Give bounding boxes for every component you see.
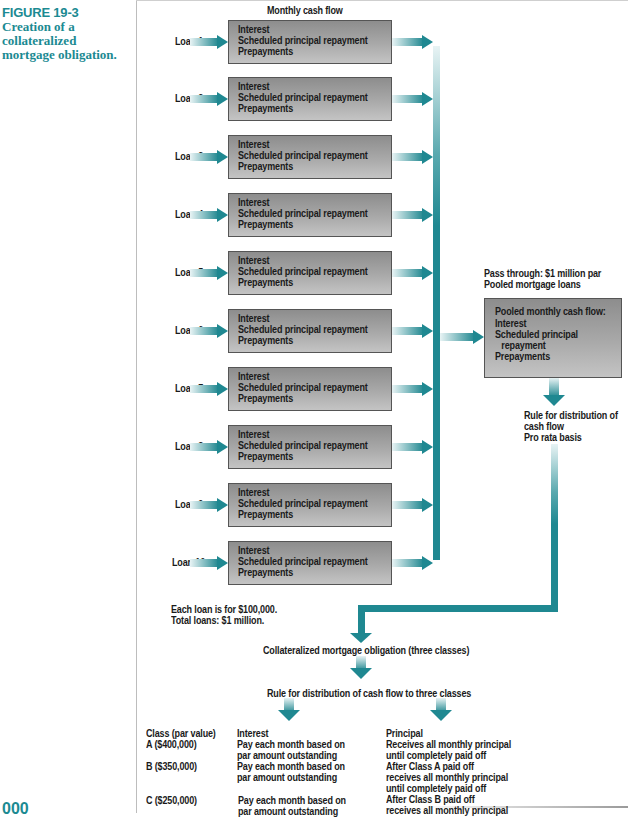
class-a-interest-line2: par amount outstanding xyxy=(237,750,345,761)
cash-flow-box: InterestScheduled principal repaymentPre… xyxy=(228,541,392,585)
route-bar-horizontal xyxy=(358,605,558,612)
loan-input-arrow xyxy=(190,556,228,570)
loan-output-arrow xyxy=(392,556,433,570)
cash-flow-item-prepayments: Prepayments xyxy=(238,509,368,520)
figure-caption: FIGURE 19-3 Creation of a collateralized… xyxy=(2,6,120,62)
cash-flow-item-interest: Interest xyxy=(238,81,368,92)
cash-flow-item-interest: Interest xyxy=(238,139,368,150)
pool-item-prepayments: Prepayments xyxy=(495,351,606,362)
class-b-interest-line1: Pay each month based on xyxy=(237,761,345,772)
loan-input-arrow xyxy=(190,150,228,164)
class-c-principal-line2: receives all monthly principal xyxy=(386,805,508,816)
cash-flow-item-prepayments: Prepayments xyxy=(238,567,368,578)
loan-output-arrow xyxy=(392,266,433,280)
pool-down-arrow xyxy=(543,378,565,408)
loan-input-arrow xyxy=(190,35,228,49)
cash-flow-items: InterestScheduled principal repaymentPre… xyxy=(238,545,368,578)
cash-flow-item-scheduled: Scheduled principal repayment xyxy=(238,556,368,567)
to-pool-arrow xyxy=(440,330,484,344)
cash-flow-item-scheduled: Scheduled principal repayment xyxy=(238,498,368,509)
cash-flow-items: InterestScheduled principal repaymentPre… xyxy=(238,429,368,462)
class-a-principal-line1: Receives all monthly principal xyxy=(386,739,511,750)
pro-rata-line3: Pro rata basis xyxy=(524,432,618,443)
route-bar-down xyxy=(358,605,365,635)
class-b-interest-line2: par amount outstanding xyxy=(237,772,345,783)
cash-flow-box: InterestScheduled principal repaymentPre… xyxy=(228,20,392,64)
loan-output-arrow xyxy=(392,324,433,338)
class-c-interest-line2: par amount outstanding xyxy=(238,806,346,817)
cmo-down-arrow xyxy=(350,656,372,680)
loan-output-arrow xyxy=(392,35,433,49)
cash-flow-item-interest: Interest xyxy=(238,487,368,498)
class-c-principal-line1: After Class B paid off xyxy=(386,794,508,805)
class-c-principal: After Class B paid off receives all mont… xyxy=(386,794,508,816)
cash-flow-box: InterestScheduled principal repaymentPre… xyxy=(228,367,392,411)
cash-flow-items: InterestScheduled principal repaymentPre… xyxy=(238,487,368,520)
cash-flow-item-scheduled: Scheduled principal repayment xyxy=(238,324,368,335)
collector-bar-top xyxy=(433,46,440,226)
cash-flow-item-scheduled: Scheduled principal repayment xyxy=(238,35,368,46)
pool-title: Pooled monthly cash flow: xyxy=(495,306,606,317)
cash-flow-box: InterestScheduled principal repaymentPre… xyxy=(228,77,392,121)
pro-rata-rule: Rule for distribution of cash flow Pro r… xyxy=(524,410,618,443)
cash-flow-item-prepayments: Prepayments xyxy=(238,46,368,57)
loan-note: Each loan is for $100,000. Total loans: … xyxy=(171,604,277,626)
cash-flow-item-scheduled: Scheduled principal repayment xyxy=(238,382,368,393)
class-c-interest: Pay each month based on par amount outst… xyxy=(238,795,346,817)
pro-rata-line1: Rule for distribution of xyxy=(524,410,618,421)
cash-flow-items: InterestScheduled principal repaymentPre… xyxy=(238,81,368,114)
pool-item-interest: Interest xyxy=(495,318,606,329)
principal-down-arrow xyxy=(430,698,452,722)
cash-flow-item-prepayments: Prepayments xyxy=(238,219,368,230)
cmo-label: Collateralized mortgage obligation (thre… xyxy=(263,645,469,656)
monthly-cash-flow-header: Monthly cash flow xyxy=(267,5,343,16)
cash-flow-item-prepayments: Prepayments xyxy=(238,335,368,346)
cash-flow-item-scheduled: Scheduled principal repayment xyxy=(238,92,368,103)
class-a-principal-line2: until completely paid off xyxy=(386,750,511,761)
loan-input-arrow xyxy=(190,208,228,222)
pass-through-line1: Pass through: $1 million par xyxy=(484,268,601,279)
principal-header: Principal xyxy=(386,728,423,739)
figure-title: Creation of a collateralized mortgage ob… xyxy=(2,19,117,62)
cash-flow-items: InterestScheduled principal repaymentPre… xyxy=(238,24,368,57)
loan-output-arrow xyxy=(392,498,433,512)
pro-rata-line2: cash flow xyxy=(524,421,618,432)
class-header: Class (par value) xyxy=(146,728,216,739)
class-b-principal: After Class A paid off receives all mont… xyxy=(386,761,508,794)
cash-flow-box: InterestScheduled principal repaymentPre… xyxy=(228,251,392,295)
pool-item-repayment: repayment xyxy=(495,340,606,351)
cash-flow-box: InterestScheduled principal repaymentPre… xyxy=(228,193,392,237)
cash-flow-item-prepayments: Prepayments xyxy=(238,451,368,462)
loan-output-arrow xyxy=(392,92,433,106)
class-a-interest: Pay each month based on par amount outst… xyxy=(237,739,345,761)
cash-flow-item-prepayments: Prepayments xyxy=(238,103,368,114)
loan-output-arrow xyxy=(392,150,433,164)
cash-flow-items: InterestScheduled principal repaymentPre… xyxy=(238,139,368,172)
cash-flow-item-interest: Interest xyxy=(238,313,368,324)
loan-output-arrow xyxy=(392,440,433,454)
class-b-interest: Pay each month based on par amount outst… xyxy=(237,761,345,783)
pass-through-line2: Pooled mortgage loans xyxy=(484,279,601,290)
pooled-cash-flow-text: Pooled monthly cash flow: Interest Sched… xyxy=(495,306,606,362)
class-b-principal-line1: After Class A paid off xyxy=(386,761,508,772)
loan-output-arrow xyxy=(392,208,433,222)
cash-flow-item-scheduled: Scheduled principal repayment xyxy=(238,208,368,219)
cash-flow-item-interest: Interest xyxy=(238,197,368,208)
figure-number: FIGURE 19-3 xyxy=(2,5,79,20)
loan-input-arrow xyxy=(190,324,228,338)
cash-flow-box: InterestScheduled principal repaymentPre… xyxy=(228,425,392,469)
class-b-principal-line2: receives all monthly principal xyxy=(386,772,508,783)
cash-flow-item-interest: Interest xyxy=(238,255,368,266)
cash-flow-item-scheduled: Scheduled principal repayment xyxy=(238,440,368,451)
cash-flow-item-interest: Interest xyxy=(238,429,368,440)
class-a-interest-line1: Pay each month based on xyxy=(237,739,345,750)
loan-input-arrow xyxy=(190,92,228,106)
cash-flow-items: InterestScheduled principal repaymentPre… xyxy=(238,255,368,288)
loan-input-arrow xyxy=(190,266,228,280)
cash-flow-item-interest: Interest xyxy=(238,371,368,382)
loan-note-line2: Total loans: $1 million. xyxy=(171,615,277,626)
pooled-cash-flow-box: Pooled monthly cash flow: Interest Sched… xyxy=(484,298,622,378)
interest-down-arrow xyxy=(278,698,300,722)
class-b-principal-line3: until completely paid off xyxy=(386,783,508,794)
loan-input-arrow xyxy=(190,498,228,512)
